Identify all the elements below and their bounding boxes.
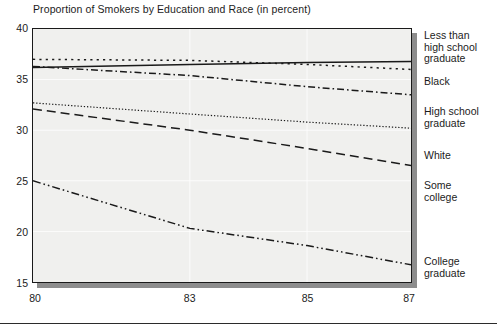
series-label: Less than high school graduate [424,30,477,65]
x-tick-label: 83 [184,292,196,304]
y-axis: 152025303540 [0,28,28,283]
x-tick-label: 87 [403,292,415,304]
series-line [33,109,411,166]
plot-lines [33,29,411,282]
series-label: Black [424,76,450,88]
x-tick-label: 85 [302,292,314,304]
series-label: Some college [424,180,457,203]
series-legend: Less than high school graduateBlackHigh … [424,28,497,293]
y-tick-label: 35 [2,73,28,85]
figure-bottom-rule [0,323,497,324]
y-tick-label: 40 [2,22,28,34]
y-tick-label: 20 [2,226,28,238]
series-line [33,66,411,94]
x-axis: 80838587 [32,292,412,306]
series-label: High school graduate [424,106,479,129]
series-line [33,61,411,67]
x-tick-label: 80 [29,292,41,304]
series-label: College graduate [424,256,465,279]
plot-area [32,28,412,283]
y-tick-label: 25 [2,175,28,187]
series-label: White [424,150,451,162]
y-tick-label: 30 [2,124,28,136]
y-tick-label: 15 [2,277,28,289]
series-line [33,181,411,265]
chart-figure: Proportion of Smokers by Education and R… [0,0,497,332]
chart-title: Proportion of Smokers by Education and R… [33,3,311,15]
series-line [33,103,411,128]
